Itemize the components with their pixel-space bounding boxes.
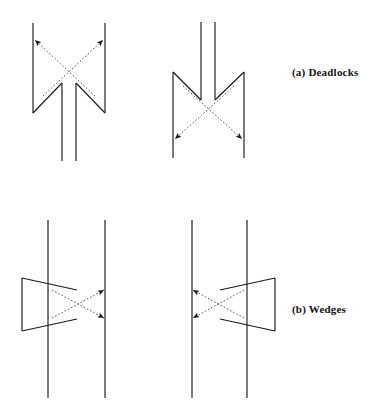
panel-wedge-left	[22, 220, 105, 398]
dashed-arrows-wedge-right	[193, 290, 244, 318]
left-arm-diagonal	[33, 83, 62, 113]
caption-deadlocks: (a) Deadlocks	[292, 66, 358, 78]
solid-strands-deadlock-right	[173, 22, 244, 158]
dashed-arrows-deadlock-left	[35, 40, 103, 96]
arrow-down-left	[175, 86, 234, 139]
wedge-top-edge	[22, 278, 77, 290]
solid-strands-wedge-left	[22, 220, 105, 398]
panel-deadlock-right	[173, 22, 244, 158]
arrow-down-right	[183, 86, 242, 139]
panel-wedge-right	[192, 220, 275, 398]
arrow-up-right	[43, 40, 103, 96]
right-arm-diagonal	[215, 72, 244, 100]
dashed-arrows-wedge-left	[52, 290, 104, 318]
right-arm-diagonal	[76, 83, 105, 113]
arrow-up-left	[35, 40, 95, 96]
caption-wedges: (b) Wedges	[292, 303, 346, 315]
wedge-bottom-edge	[22, 319, 77, 331]
figure-canvas	[0, 0, 384, 416]
arrow-right-down	[52, 290, 104, 318]
dashed-arrows-deadlock-right	[175, 86, 242, 139]
solid-strands-deadlock-left	[33, 23, 105, 161]
left-arm-diagonal	[173, 72, 201, 100]
figure-root: (a) Deadlocks (b) Wedges	[0, 0, 384, 416]
solid-strands-wedge-right	[192, 220, 275, 398]
panel-deadlock-left	[33, 23, 105, 161]
